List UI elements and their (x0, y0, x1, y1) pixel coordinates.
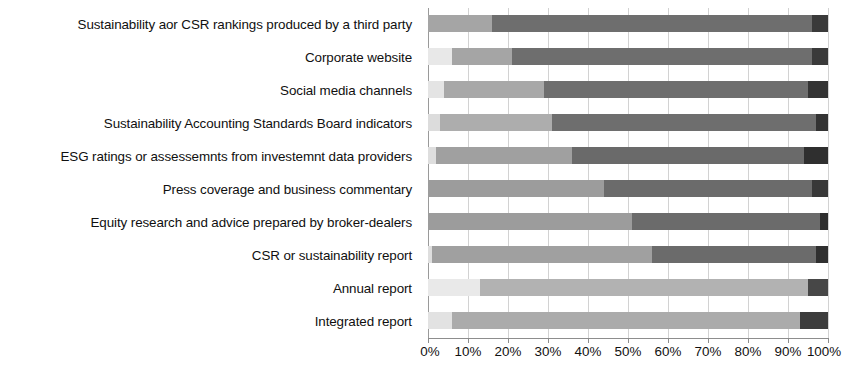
bar-row (428, 206, 828, 239)
category-label: Corporate website (0, 41, 420, 74)
bar-row (428, 140, 828, 173)
category-label: Integrated report (0, 305, 420, 338)
bar-row (428, 173, 828, 206)
category-axis-labels: Sustainability aor CSR rankings produced… (0, 8, 420, 338)
stacked-bar[interactable] (428, 180, 828, 197)
x-axis-tick-label: 50% (615, 344, 642, 359)
bar-row (428, 305, 828, 338)
category-label: CSR or sustainability report (0, 239, 420, 272)
bar-segment[interactable] (804, 147, 828, 164)
x-axis-tick (748, 338, 749, 343)
bar-segment[interactable] (428, 279, 480, 296)
bar-segment[interactable] (816, 246, 828, 263)
x-axis-tick (628, 338, 629, 343)
bar-row (428, 107, 828, 140)
x-axis-tick-label: 10% (455, 344, 482, 359)
x-axis-tick (468, 338, 469, 343)
x-axis-tick-label: 30% (535, 344, 562, 359)
stacked-bar[interactable] (428, 246, 828, 263)
stacked-bar[interactable] (428, 147, 828, 164)
bar-row (428, 41, 828, 74)
x-axis-tick (548, 338, 549, 343)
bar-segment[interactable] (544, 81, 808, 98)
stacked-bar[interactable] (428, 213, 828, 230)
stacked-bar[interactable] (428, 15, 828, 32)
category-label: Social media channels (0, 74, 420, 107)
stacked-bar[interactable] (428, 81, 828, 98)
x-axis-tick-label: 90% (775, 344, 802, 359)
x-axis-tick (708, 338, 709, 343)
plot-area (428, 8, 828, 338)
bar-segment[interactable] (436, 147, 572, 164)
bar-segment[interactable] (440, 114, 552, 131)
bar-segment[interactable] (632, 213, 820, 230)
bar-row (428, 239, 828, 272)
category-label: ESG ratings or assessemnts from investem… (0, 140, 420, 173)
bar-segment[interactable] (812, 180, 828, 197)
bar-segment[interactable] (452, 312, 800, 329)
stacked-bar[interactable] (428, 279, 828, 296)
bar-segment[interactable] (428, 312, 452, 329)
stacked-bar[interactable] (428, 48, 828, 65)
x-axis-tick-label: 40% (575, 344, 602, 359)
bar-segment[interactable] (572, 147, 804, 164)
bar-segment[interactable] (428, 48, 452, 65)
x-axis-tick-label: 100% (807, 344, 841, 359)
category-label: Press coverage and business commentary (0, 173, 420, 206)
x-axis-tick (828, 338, 829, 343)
bar-segment[interactable] (604, 180, 812, 197)
bar-row (428, 272, 828, 305)
x-axis-tick (668, 338, 669, 343)
bar-row (428, 74, 828, 107)
bar-segment[interactable] (820, 213, 828, 230)
x-axis-tick-label: 60% (655, 344, 682, 359)
bar-segment[interactable] (444, 81, 544, 98)
category-label: Annual report (0, 272, 420, 305)
bar-segment[interactable] (452, 48, 512, 65)
bar-segment[interactable] (816, 114, 828, 131)
bar-segment[interactable] (428, 147, 436, 164)
bar-segment[interactable] (480, 279, 808, 296)
x-axis-tick (788, 338, 789, 343)
bar-segment[interactable] (428, 180, 604, 197)
bar-segment[interactable] (552, 114, 816, 131)
bar-segment[interactable] (512, 48, 812, 65)
category-label: Sustainability Accounting Standards Boar… (0, 107, 420, 140)
bar-segment[interactable] (432, 246, 652, 263)
x-axis-tick (588, 338, 589, 343)
gridline (828, 8, 829, 338)
x-axis-tick-label: 80% (735, 344, 762, 359)
category-label: Sustainability aor CSR rankings produced… (0, 8, 420, 41)
bar-segment[interactable] (428, 213, 632, 230)
bar-row (428, 8, 828, 41)
bar-segment[interactable] (428, 81, 444, 98)
bar-segment[interactable] (812, 48, 828, 65)
bar-segment[interactable] (808, 81, 828, 98)
bar-segment[interactable] (800, 312, 828, 329)
bar-segment[interactable] (652, 246, 816, 263)
x-axis-tick-label: 0% (420, 344, 439, 359)
bar-series-container (428, 8, 828, 338)
stacked-bar[interactable] (428, 312, 828, 329)
category-label: Equity research and advice prepared by b… (0, 206, 420, 239)
bar-segment[interactable] (808, 279, 828, 296)
bar-segment[interactable] (428, 114, 440, 131)
x-axis-tick-labels: 0%10%20%30%40%50%60%70%80%90%100% (428, 344, 829, 366)
bar-segment[interactable] (812, 15, 828, 32)
x-axis-tick (508, 338, 509, 343)
x-axis-tick-label: 70% (695, 344, 722, 359)
x-axis-tick (428, 338, 429, 343)
x-axis-tick-label: 20% (495, 344, 522, 359)
stacked-bar[interactable] (428, 114, 828, 131)
stacked-bar-chart: Sustainability aor CSR rankings produced… (0, 0, 846, 380)
bar-segment[interactable] (428, 15, 492, 32)
bar-segment[interactable] (492, 15, 812, 32)
